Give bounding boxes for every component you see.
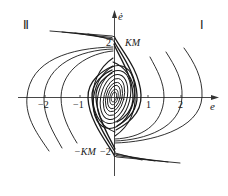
- quadrant-label-left: Ⅱ: [23, 19, 29, 31]
- y-tick-label-2: 2: [106, 38, 111, 48]
- y-axis-label: ė: [118, 11, 123, 22]
- quadrant-label-right: Ⅰ: [200, 19, 204, 31]
- x-tick-label-2: 2: [178, 100, 183, 110]
- y-axis-arrow-icon: [112, 10, 117, 18]
- neg-km-label: −KM: [74, 147, 96, 157]
- y-tick-label-m2: −2: [100, 147, 111, 157]
- phase-portrait: [0, 0, 228, 196]
- km-label: KM: [125, 38, 140, 48]
- x-tick-label-m2: −2: [38, 100, 49, 110]
- x-axis-label: e: [210, 101, 215, 112]
- x-tick-label-m1: −1: [73, 100, 84, 110]
- x-tick-label-1: 1: [146, 100, 151, 110]
